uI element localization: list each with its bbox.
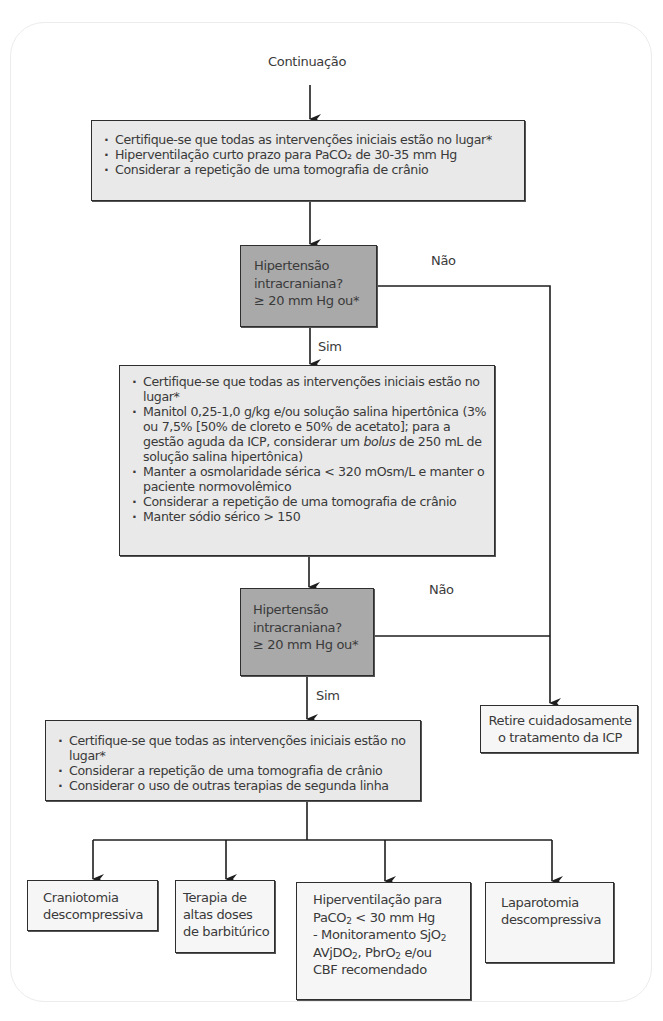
option-line: de barbitúrico (183, 923, 270, 940)
option-line: Laparotomia (501, 894, 609, 911)
decision1-line: intracraniana? (254, 275, 370, 293)
option-hyperventilation: Hiperventilação para PaCO2 < 30 mm Hg - … (296, 882, 471, 1000)
decision2-line: Hipertensão (253, 601, 367, 619)
option-line: Craniotomia (43, 889, 153, 906)
option-line: PaCO2 < 30 mm Hg (313, 909, 466, 927)
decision1-line: Hipertensão (254, 257, 370, 275)
start-label: Continuação (268, 54, 346, 69)
option-line: Hiperventilação para (313, 891, 466, 909)
box2-item: Manter a osmolaridade sérica < 320 mOsm/… (130, 464, 488, 494)
box2-item: Certifique-se que todas as intervenções … (130, 374, 488, 404)
box3-item: Considerar o uso de outras terapias de s… (56, 778, 414, 793)
osmotic-therapy-box: Certifique-se que todas as intervenções … (119, 365, 495, 556)
box3-item: Certifique-se que todas as intervenções … (56, 733, 414, 763)
box2-item: Manitol 0,25-1,0 g/kg e/ou solução salin… (130, 404, 488, 464)
withdraw-line: Retire cuidadosamente (487, 712, 633, 729)
decision2-no-label: Não (429, 582, 454, 597)
option-line: descompressiva (501, 911, 609, 928)
option-line: CBF recomendado (313, 961, 466, 979)
box2-item: Considerar a repetição de uma tomografia… (130, 494, 488, 509)
decision1-line: ≥ 20 mm Hg ou* (254, 292, 370, 310)
option-line: descompressiva (43, 906, 153, 923)
withdraw-line: o tratamento da ICP (487, 729, 633, 746)
withdraw-treatment-box: Retire cuidadosamente o tratamento da IC… (480, 705, 638, 753)
icp-decision-2: Hipertensão intracraniana? ≥ 20 mm Hg ou… (240, 588, 374, 676)
initial-interventions-box: Certifique-se que todas as intervenções … (91, 120, 525, 201)
option-decompressive-craniotomy: Craniotomia descompressiva (27, 880, 158, 931)
box1-item: Certifique-se que todas as intervenções … (102, 132, 516, 147)
box1-item: Considerar a repetição de uma tomografia… (102, 162, 516, 177)
decision2-line: intracraniana? (253, 619, 367, 637)
decision1-no-label: Não (431, 253, 456, 268)
decision2-yes-label: Sim (316, 688, 340, 703)
decision1-yes-label: Sim (318, 339, 342, 354)
option-barbiturate-therapy: Terapia de altas doses de barbitúrico (175, 880, 275, 953)
icp-decision-1: Hipertensão intracraniana? ≥ 20 mm Hg ou… (240, 245, 377, 327)
decision2-line: ≥ 20 mm Hg ou* (253, 636, 367, 654)
option-line: AVjDO2, PbrO2 e/ou (313, 944, 466, 962)
box1-item: Hiperventilação curto prazo para PaCO₂ d… (102, 147, 516, 162)
option-line: altas doses (183, 906, 270, 923)
box2-item: Manter sódio sérico > 150 (130, 509, 488, 524)
box3-item: Considerar a repetição de uma tomografia… (56, 763, 414, 778)
option-line: - Monitoramento SjO2 (313, 926, 466, 944)
second-line-box: Certifique-se que todas as intervenções … (45, 720, 421, 801)
option-line: Terapia de (183, 889, 270, 906)
option-decompressive-laparotomy: Laparotomia descompressiva (485, 882, 614, 963)
